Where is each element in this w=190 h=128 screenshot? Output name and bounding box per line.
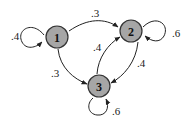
edge-label-3-3: .6 [112,105,121,117]
state-node-1: 1 [46,26,68,48]
edge-1-2 [69,21,118,31]
edge-label-1-2: .3 [91,7,100,19]
edge-2-3 [111,42,138,83]
state-node-label: 3 [96,80,102,94]
edge-label-1-1: .4 [11,30,20,42]
edge-label-1-3: .3 [51,67,60,79]
edge-label-3-2: .4 [93,41,102,53]
edge-2-2 [143,21,165,41]
edge-3-3 [89,98,108,115]
state-node-2: 2 [120,20,142,42]
edge-label-2-2: .6 [172,27,181,39]
state-node-3: 3 [88,75,110,97]
state-diagram: .4 .3 .3 .6 .4 .4 .6 1 2 3 [0,0,190,128]
state-node-label: 1 [54,31,60,45]
edge-label-2-3: .4 [137,57,146,69]
state-node-label: 2 [128,25,134,39]
edge-1-1 [21,27,44,47]
edge-1-3 [58,49,87,84]
